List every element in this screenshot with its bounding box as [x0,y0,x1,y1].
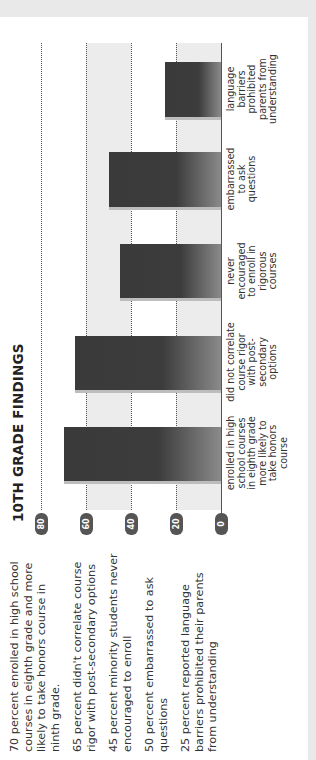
finding-item: 70 percent enrolled in high school cours… [8,552,62,752]
category-label: embarrassed to ask questions [226,144,258,214]
category-label: did not correlate course rigor with post… [226,322,279,402]
bar-enrolled-high-school [64,427,221,481]
finding-item: 25 percent reported language barriers pr… [179,552,220,752]
findings-list: 70 percent enrolled in high school cours… [8,552,229,752]
bar-language-barriers [165,62,221,117]
category-label: never encouraged to enroll in rigorous c… [226,238,279,304]
bar-chart: 80 60 40 20 0 enrolled in high school co… [0,35,308,510]
gridline-80 [41,43,42,510]
content-panel: 70 percent enrolled in high school cours… [0,17,308,760]
category-label: language barriers prohibited parents fro… [226,48,279,130]
finding-item: 50 percent embarrassed to ask questions [143,552,170,752]
axis-tick-80: 80 [35,513,48,535]
bar-never-encouraged [120,244,221,298]
bar-did-not-correlate [75,336,221,390]
bar-embarrassed [109,152,221,207]
finding-item: 65 percent didn't correlate course rigor… [71,552,98,752]
category-label: enrolled in high school courses in eight… [226,414,289,492]
axis-tick-0: 0 [215,513,228,535]
finding-item: 45 percent minority students never encou… [107,552,134,752]
baseline [221,43,222,520]
axis-tick-40: 40 [125,513,138,535]
axis-tick-60: 60 [80,513,93,535]
page: 70 percent enrolled in high school cours… [0,0,316,760]
axis-tick-20: 20 [170,513,183,535]
